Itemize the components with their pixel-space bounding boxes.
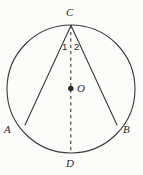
center-point-dot: [68, 86, 73, 91]
geometry-figure: C D A B O 1 2: [0, 0, 143, 175]
diagram-canvas: [0, 0, 143, 175]
center-label-o: O: [77, 83, 85, 94]
point-label-d: D: [66, 158, 74, 169]
point-label-c: C: [66, 7, 73, 18]
angle-label-2: 2: [74, 42, 79, 52]
point-label-a: A: [4, 124, 11, 135]
angle-label-1: 1: [62, 42, 67, 52]
point-label-b: B: [123, 124, 130, 135]
